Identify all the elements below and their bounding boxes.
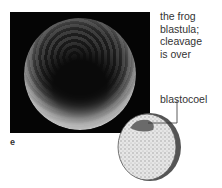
blastula-cross-section-diagram xyxy=(0,0,222,188)
